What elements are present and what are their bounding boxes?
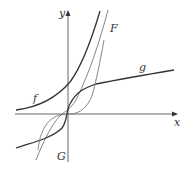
y-axis-arrow-icon: [66, 10, 71, 16]
function-graph: y x f F g G: [0, 0, 187, 175]
y-axis-label: y: [58, 7, 66, 20]
curve-f: [16, 11, 100, 110]
curve-f-label: f: [32, 92, 39, 105]
curve-G-label: G: [57, 150, 66, 163]
curve-g: [16, 70, 174, 148]
curve-F-label: F: [109, 22, 118, 35]
x-axis-label: x: [174, 116, 181, 129]
curve-g-label: g: [139, 61, 146, 74]
